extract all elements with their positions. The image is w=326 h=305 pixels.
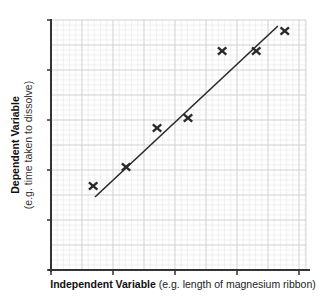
y-axis-label: Dependent Variable (e.g. time taken to d… — [9, 81, 35, 209]
grid — [51, 20, 306, 270]
data-point-x-marker — [218, 47, 226, 54]
data-point-x-marker — [252, 47, 260, 54]
axes — [47, 19, 310, 275]
best-fit-line — [95, 26, 278, 197]
x-axis-label-bold: Independent Variable — [50, 278, 156, 290]
data-point-x-marker — [281, 27, 289, 34]
y-axis-label-note: (e.g. time taken to dissolve) — [22, 81, 35, 209]
scatter-chart — [0, 0, 326, 305]
data-point-x-marker — [89, 182, 97, 189]
data-point-x-marker — [122, 163, 130, 170]
data-point-x-marker — [153, 124, 161, 131]
data-point-x-marker — [184, 114, 192, 121]
y-axis-label-bold: Dependent Variable — [9, 81, 22, 209]
x-axis-label-note: (e.g. length of magnesium ribbon) — [159, 278, 316, 290]
x-axis-label: Independent Variable (e.g. length of mag… — [0, 278, 326, 290]
